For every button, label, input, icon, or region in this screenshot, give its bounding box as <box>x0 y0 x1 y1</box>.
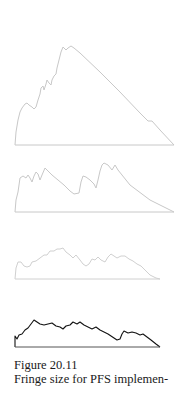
plot-panel-3 <box>15 248 160 279</box>
plot-panel-2 <box>15 163 174 212</box>
figure-number: Figure 20.11 <box>14 358 181 372</box>
plot-panel-4 <box>15 320 160 347</box>
figure-caption: Figure 20.11 Fringe size for PFS impleme… <box>14 358 181 386</box>
figure-caption-text: Fringe size for PFS implemen- <box>14 372 181 386</box>
figure-plots <box>0 0 181 360</box>
plot-panel-1 <box>15 46 174 145</box>
